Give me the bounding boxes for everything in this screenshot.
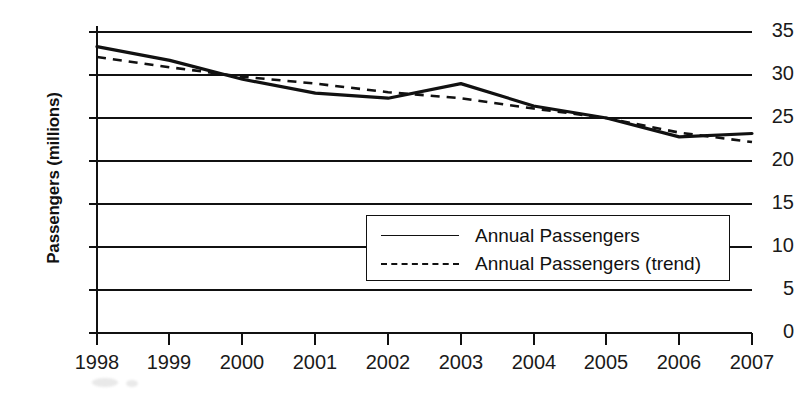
plot-area xyxy=(0,0,794,398)
x-tick-label: 2001 xyxy=(280,352,350,372)
dashed-line-swatch xyxy=(381,257,459,269)
x-tick-label: 2006 xyxy=(644,352,714,372)
solid-line-swatch xyxy=(381,229,459,241)
x-tick-label: 2003 xyxy=(426,352,496,372)
x-tick-label: 2000 xyxy=(207,352,277,372)
legend-item-label: Annual Passengers (trend) xyxy=(475,254,701,273)
x-tick-marks xyxy=(97,333,752,345)
x-tick-label: 2007 xyxy=(717,352,787,372)
series-line-annual-passengers xyxy=(97,47,752,137)
x-tick-label: 2004 xyxy=(499,352,569,372)
legend-item-label: Annual Passengers xyxy=(475,226,640,245)
x-tick-label: 1998 xyxy=(62,352,132,372)
line-chart-figure: Passengers (millions) 35 30 25 20 15 10 … xyxy=(0,0,794,398)
legend-item: Annual Passengers (trend) xyxy=(367,249,729,277)
chart-legend: Annual Passengers Annual Passengers (tre… xyxy=(366,215,730,281)
x-tick-label: 2005 xyxy=(571,352,641,372)
x-tick-label: 1999 xyxy=(134,352,204,372)
x-tick-label: 2002 xyxy=(353,352,423,372)
legend-item: Annual Passengers xyxy=(367,221,729,249)
